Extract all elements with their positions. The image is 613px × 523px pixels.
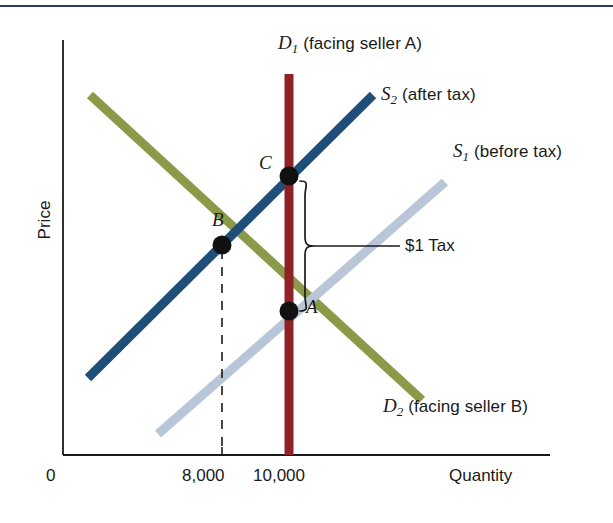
point-marker-b [213,236,232,255]
curve-label-s2-text: (after tax) [397,85,476,104]
curve-label-d1-text: (facing seller A) [298,34,422,53]
figure-container: D1 (facing seller A) S2 (after tax) S1 (… [0,0,613,523]
y-axis-label: Price [35,175,55,265]
curve-label-d1: D1 (facing seller A) [278,32,422,57]
curve-label-s2-symbol: S [381,83,391,104]
point-marker-a [280,302,299,321]
curve-label-s2: S2 (after tax) [381,83,476,108]
curve-label-d2: D2 (facing seller B) [383,395,528,420]
origin-label: 0 [46,466,55,486]
x-tick-label-8000: 8,000 [182,466,225,486]
tax-annotation-label: $1 Tax [405,236,455,256]
plot-svg [0,0,613,523]
curve-label-d2-symbol: D [383,395,397,416]
point-marker-c [280,167,299,186]
point-label-a: A [306,296,318,318]
curve-label-s1-symbol: S [453,140,463,161]
point-label-c: C [259,152,272,174]
x-axis-label: Quantity [449,466,512,486]
x-tick-label-10000: 10,000 [253,466,305,486]
curve-label-d1-symbol: D [278,32,292,53]
curve-label-s1: S1 (before tax) [453,140,562,165]
curve-label-d2-text: (facing seller B) [403,397,528,416]
point-label-b: B [212,209,224,231]
curve-label-s1-text: (before tax) [469,142,562,161]
